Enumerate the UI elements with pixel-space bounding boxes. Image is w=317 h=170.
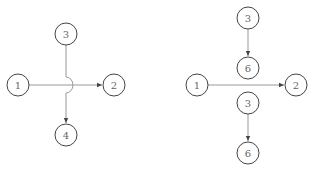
node-1[interactable]: 1 (7, 74, 29, 96)
node-6-bottom[interactable]: 6 (237, 142, 259, 164)
node-3[interactable]: 3 (55, 23, 77, 45)
diagram-canvas: 1 2 3 4 3 6 1 (0, 0, 317, 170)
node-3-top[interactable]: 3 (237, 7, 259, 29)
node-label: 2 (293, 80, 299, 91)
node-label: 1 (15, 80, 21, 91)
node-label: 2 (111, 80, 117, 91)
node-label: 4 (63, 130, 69, 141)
node-label: 3 (245, 98, 251, 109)
node-2[interactable]: 2 (103, 74, 125, 96)
node-2[interactable]: 2 (285, 74, 307, 96)
right-diagram: 3 6 1 2 3 6 (186, 7, 307, 164)
node-3-bottom[interactable]: 3 (237, 92, 259, 114)
node-label: 6 (245, 63, 251, 74)
node-label: 3 (63, 29, 69, 40)
node-6-top[interactable]: 6 (237, 57, 259, 79)
node-4[interactable]: 4 (55, 124, 77, 146)
left-diagram: 1 2 3 4 (7, 23, 125, 146)
node-label: 1 (194, 80, 200, 91)
node-label: 6 (245, 148, 251, 159)
node-label: 3 (245, 13, 251, 24)
node-1[interactable]: 1 (186, 74, 208, 96)
edge-3-to-4-jump (66, 45, 73, 123)
